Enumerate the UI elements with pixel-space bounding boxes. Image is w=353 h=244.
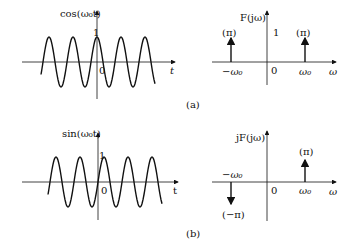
axis-tick-label: 1 <box>273 28 279 38</box>
peak-label: 1 <box>99 151 105 161</box>
cos-ylabel: cos(ω₀t) <box>60 9 101 19</box>
impulse-pos-label-pos: ω₀ <box>299 186 311 196</box>
impulse-pos-label-neg: −ω₀ <box>222 67 243 77</box>
impulse-pos-label-neg: −ω₀ <box>222 170 243 180</box>
sin-ylabel: sin(ω₀t) <box>62 129 101 139</box>
caption-a: (a) <box>186 100 200 110</box>
cos-time-plot <box>22 11 175 99</box>
omega-label: ω <box>329 67 337 77</box>
origin-label: 0 <box>271 186 277 196</box>
spectrum-ylabel: F(jω) <box>240 13 266 23</box>
origin-label: 0 <box>271 66 277 76</box>
origin-label: 0 <box>99 66 105 76</box>
impulse-weight-pos: (π) <box>296 28 310 38</box>
peak-label: 1 <box>93 28 99 38</box>
caption-b: (b) <box>186 229 200 239</box>
sin-time-plot <box>22 133 178 220</box>
t-label: t <box>170 66 174 76</box>
spectrum-ylabel: jF(jω) <box>236 133 265 143</box>
origin-label: 0 <box>101 186 107 196</box>
impulse-weight-pos: (π) <box>299 147 313 157</box>
t-label: t <box>173 186 177 196</box>
impulse-weight-neg: (π) <box>222 28 236 38</box>
impulse-weight-neg: (−π) <box>222 210 245 220</box>
impulse-pos-label-pos: ω₀ <box>299 67 311 77</box>
omega-label: ω <box>329 187 337 197</box>
